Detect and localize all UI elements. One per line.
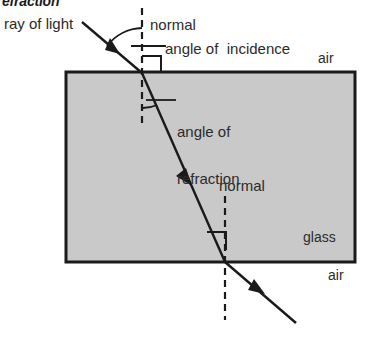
right-angle-marker-entry [142,56,161,72]
air-top-label: air [318,51,334,66]
angle-of-refraction-line1: angle of [177,124,240,140]
emergent-ray-arrowhead [248,279,265,294]
glass-label: glass [303,230,336,245]
normal-middle-label: normal [219,178,265,194]
ray-of-light-label: ray of light [4,16,73,32]
angle-of-incidence-label: angle of incidence [165,41,290,57]
air-bottom-label: air [328,268,344,283]
diagram-title: efraction [2,0,59,9]
refraction-diagram: efraction ray of light normal angle of i… [0,0,381,340]
normal-top-label: normal [150,17,196,33]
angle-of-refraction-label: angle of refraction [177,92,240,218]
